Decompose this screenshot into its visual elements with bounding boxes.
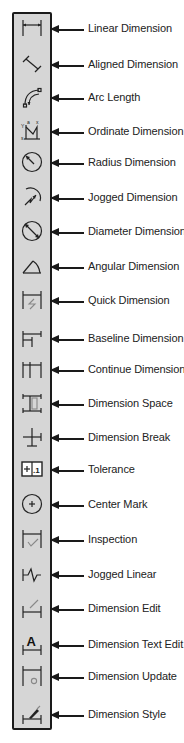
callout-label: Linear Dimension — [88, 22, 172, 34]
tool-dimension-edit-button[interactable] — [14, 595, 50, 625]
leader-line — [56, 132, 84, 134]
inspection-icon — [20, 527, 44, 555]
callout-label: Aligned Dimension — [88, 58, 178, 70]
tolerance-icon: .1 — [20, 457, 44, 485]
tool-diameter-dimension-button[interactable] — [14, 218, 50, 248]
callout-label: Jogged Linear — [88, 568, 156, 580]
leader-line — [56, 65, 84, 67]
dimension-edit-icon — [20, 596, 44, 624]
svg-text:a: a — [27, 119, 30, 125]
tool-jogged-dimension-button[interactable] — [14, 184, 50, 214]
leader-line — [56, 29, 84, 31]
callout-label: Dimension Style — [88, 708, 166, 720]
leader-line — [56, 232, 84, 234]
svg-text:s: s — [21, 135, 24, 141]
leader-line — [56, 339, 84, 341]
quick-dimension-icon — [20, 288, 44, 316]
callout-label: Inspection — [88, 533, 137, 545]
tool-quick-dimension-button[interactable] — [14, 287, 50, 317]
callout-label: Continue Dimension — [88, 363, 184, 375]
callout-label: Radius Dimension — [88, 156, 176, 168]
callout-label: Jogged Dimension — [88, 191, 178, 203]
tool-dimension-space-button[interactable] — [14, 390, 50, 420]
svg-text:.1: .1 — [33, 466, 40, 475]
tool-jogged-linear-button[interactable] — [14, 561, 50, 591]
leader-line — [56, 163, 84, 165]
angular-dimension-icon — [20, 254, 44, 282]
ordinate-dimension-icon: axYs — [20, 119, 44, 147]
callout-label: Ordinate Dimension — [88, 125, 183, 137]
dimension-update-icon — [20, 664, 44, 692]
leader-line — [56, 505, 84, 507]
tool-aligned-dimension-button[interactable] — [14, 51, 50, 81]
jogged-linear-icon — [20, 562, 44, 590]
callout-label: Baseline Dimension — [88, 332, 183, 344]
callout-label: Dimension Edit — [88, 602, 161, 614]
tool-dimension-style-button[interactable] — [14, 701, 50, 731]
tool-radius-dimension-button[interactable] — [14, 149, 50, 179]
dimension-style-icon — [20, 702, 44, 730]
callout-label: Arc Length — [88, 91, 140, 103]
tool-angular-dimension-button[interactable] — [14, 253, 50, 283]
tool-continue-dimension-button[interactable] — [14, 356, 50, 386]
svg-text:Y: Y — [21, 123, 25, 129]
tool-baseline-dimension-button[interactable] — [14, 325, 50, 355]
leader-line — [56, 301, 84, 303]
tool-ordinate-dimension-button[interactable]: axYs — [14, 118, 50, 148]
linear-dimension-icon — [20, 16, 44, 44]
continue-dimension-icon — [20, 357, 44, 385]
leader-line — [56, 470, 84, 472]
tool-dimension-update-button[interactable] — [14, 663, 50, 693]
callout-label: Dimension Text Edit — [88, 638, 183, 650]
callout-label: Center Mark — [88, 498, 147, 510]
diameter-dimension-icon — [20, 219, 44, 247]
leader-line — [56, 267, 84, 269]
leader-line — [56, 645, 84, 647]
tool-arc-length-button[interactable] — [14, 84, 50, 114]
svg-text:A: A — [27, 634, 37, 649]
callout-label: Dimension Update — [88, 670, 177, 682]
callout-label: Quick Dimension — [88, 294, 170, 306]
center-mark-icon — [20, 492, 44, 520]
callout-label: Diameter Dimension — [88, 225, 184, 237]
leader-line — [56, 715, 84, 717]
tool-linear-dimension-button[interactable] — [14, 15, 50, 45]
dimension-space-icon — [20, 391, 44, 419]
leader-line — [56, 98, 84, 100]
leader-line — [56, 677, 84, 679]
jogged-dimension-icon — [20, 185, 44, 213]
aligned-dimension-icon — [20, 52, 44, 80]
svg-text:x: x — [36, 119, 39, 125]
callout-label: Tolerance — [88, 463, 135, 475]
arc-length-icon — [20, 85, 44, 113]
leader-line — [56, 575, 84, 577]
tool-dimension-text-edit-button[interactable]: A — [14, 631, 50, 661]
leader-line — [56, 540, 84, 542]
tool-center-mark-button[interactable] — [14, 491, 50, 521]
tool-dimension-break-button[interactable] — [14, 424, 50, 454]
baseline-dimension-icon — [20, 326, 44, 354]
leader-line — [56, 404, 84, 406]
tool-tolerance-button[interactable]: .1 — [14, 456, 50, 486]
callout-label: Dimension Break — [88, 431, 170, 443]
dimension-text-edit-icon: A — [20, 632, 44, 660]
callout-label: Dimension Space — [88, 397, 173, 409]
dimension-break-icon — [20, 425, 44, 453]
tool-inspection-button[interactable] — [14, 526, 50, 556]
callout-label: Angular Dimension — [88, 260, 179, 272]
leader-line — [56, 438, 84, 440]
leader-line — [56, 370, 84, 372]
leader-line — [56, 198, 84, 200]
leader-line — [56, 609, 84, 611]
radius-dimension-icon — [20, 150, 44, 178]
